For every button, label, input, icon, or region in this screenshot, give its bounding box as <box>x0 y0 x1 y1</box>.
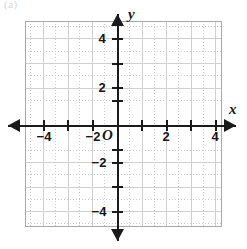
minor-gridlines <box>25 21 222 226</box>
y-axis-arrow-up <box>111 14 124 26</box>
x-tick-label-4: 4 <box>208 129 222 144</box>
y-tick-label-minus2: −2 <box>88 155 110 170</box>
y-tick-label-4: 4 <box>95 31 109 46</box>
y-tick-label-2: 2 <box>95 80 109 95</box>
y-axis-label: y <box>128 6 135 23</box>
x-tick-label-2: 2 <box>159 129 173 144</box>
x-axis-arrow-right <box>224 119 236 132</box>
x-axis-arrow-left <box>8 119 20 132</box>
x-tick-label-minus4: −4 <box>33 129 55 144</box>
coordinate-plane-figure: (a) <box>0 0 247 249</box>
x-axis-label: x <box>229 101 237 118</box>
coordinate-grid <box>0 0 247 249</box>
y-axis-arrow-down <box>111 229 124 241</box>
y-tick-label-minus4: −4 <box>88 204 110 219</box>
x-tick-label-minus2: −2 <box>82 129 104 144</box>
